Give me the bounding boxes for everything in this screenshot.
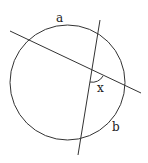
circle [10, 25, 125, 140]
label-angle-x: x [97, 81, 104, 95]
label-arc-b: b [112, 120, 120, 134]
label-arc-a: a [56, 11, 63, 25]
geometry-diagram: a b x [0, 0, 148, 163]
